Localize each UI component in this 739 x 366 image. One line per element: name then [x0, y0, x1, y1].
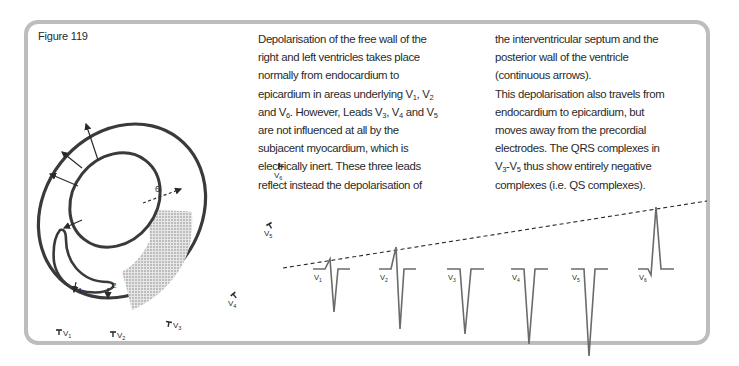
- ecg-trace-v1: V1: [313, 259, 350, 312]
- ecg-lead-label: V3: [448, 273, 456, 283]
- arrow-label-1: 1: [78, 286, 83, 295]
- ecg-traces: V1V2V3V4V5V6: [313, 207, 674, 356]
- heart-cross-section: 6 1 2: [4, 90, 240, 331]
- electrode-icon: [278, 163, 284, 170]
- r-wave-progression-line: [283, 201, 707, 268]
- ecg-trace-v6: V6: [638, 207, 674, 283]
- electrode-v4: V4: [228, 292, 239, 309]
- ecg-lead-label: V2: [380, 273, 388, 283]
- electrode-v2: V2: [110, 331, 125, 341]
- depolarisation-arrow: [86, 124, 98, 160]
- electrode-label: V5: [264, 229, 272, 239]
- ecg-trace-v2: V2: [379, 247, 416, 329]
- electrode-v3: V3: [165, 321, 181, 331]
- electrode-label: V3: [173, 321, 181, 331]
- electrode-label: V4: [228, 299, 236, 309]
- ecg-trace-v5: V5: [571, 269, 608, 356]
- electrode-label: V2: [117, 331, 125, 341]
- ecg-trace-v4: V4: [511, 269, 548, 344]
- arrow-label-2: 2: [112, 281, 117, 290]
- ecg-lead-label: V6: [639, 273, 647, 283]
- electrode-icon: [165, 321, 172, 327]
- electrode-v6: V6: [274, 163, 284, 181]
- ecg-lead-label: V4: [512, 273, 520, 283]
- ecg-lead-label: V1: [314, 273, 322, 283]
- electrode-label: V6: [274, 171, 282, 181]
- arrow-label-6: 6: [155, 184, 160, 194]
- heart-and-ecg-diagram: 6 1 2 V1V2V3V4V5V6 V1V2V3V4V5V6: [0, 0, 739, 366]
- ecg-trace-v3: V3: [447, 269, 484, 334]
- electrode-label: V1: [63, 329, 71, 339]
- ecg-lead-label: V5: [572, 273, 580, 283]
- electrode-v5: V5: [264, 223, 274, 240]
- electrode-icon: [56, 330, 62, 335]
- electrode-icon: [110, 332, 116, 337]
- depolarisation-arrow: [50, 174, 78, 186]
- electrode-v1: V1: [56, 329, 71, 339]
